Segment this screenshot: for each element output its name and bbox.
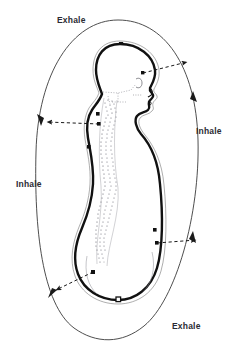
- marker-nape: [96, 112, 100, 116]
- marker-upper-back: [97, 122, 101, 126]
- seat-and-leg-faint-contour: [86, 252, 154, 294]
- marker-sacrum: [91, 270, 95, 274]
- arrow-upper-right: [143, 62, 187, 73]
- marker-knee: [153, 228, 157, 232]
- marker-head-front: [141, 71, 144, 74]
- arrow-left: [47, 122, 99, 124]
- expansion-arrows: [47, 62, 196, 290]
- breathing-cycle-diagram: Exhale Inhale Inhale Exhale: [0, 0, 236, 351]
- marker-mid-back: [87, 145, 91, 149]
- label-exhale-bottom: Exhale: [172, 322, 201, 331]
- cycle-direction-arrowheads: [37, 91, 197, 298]
- label-inhale-right: Inhale: [196, 127, 222, 136]
- arrow-lower-right: [157, 240, 196, 243]
- marker-shin: [155, 241, 159, 245]
- diagram-canvas: [0, 0, 236, 351]
- marker-seat: [116, 297, 121, 302]
- label-exhale-top: Exhale: [57, 16, 86, 25]
- marker-crown: [119, 42, 123, 45]
- label-inhale-left: Inhale: [16, 180, 42, 189]
- skull-base-construction-lines: [103, 84, 136, 104]
